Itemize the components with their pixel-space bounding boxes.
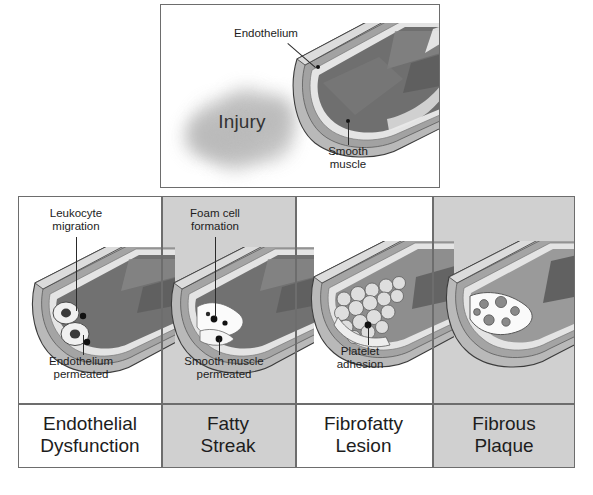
leader-line-smooth-muscle bbox=[348, 123, 349, 145]
annotation-endothelium-permeated: Endothelium permeated bbox=[33, 355, 129, 382]
stage-caption-fibrous-plaque: Fibrous Plaque bbox=[432, 403, 575, 467]
annotation-leukocyte-migration: Leukocyte migration bbox=[35, 207, 117, 234]
stage-caption-endothelial-dysfunction: Endothelial Dysfunction bbox=[19, 403, 161, 467]
annotation-platelet-adhesion: Platelet adhesion bbox=[321, 345, 399, 372]
annotation-smooth-muscle: Smooth muscle bbox=[312, 145, 384, 172]
stage-caption-fibrofatty-lesion: Fibrofatty Lesion bbox=[295, 403, 432, 467]
leader-dot-endothelium bbox=[316, 65, 320, 69]
leader-dot-smooth-muscle bbox=[346, 119, 350, 123]
injury-panel: Injury bbox=[160, 4, 440, 188]
annotation-smooth-muscle-permeated: Smooth muscle permeated bbox=[165, 355, 283, 382]
annotation-endothelium: Endothelium bbox=[234, 27, 334, 40]
leader-line-platelet-adhesion bbox=[368, 327, 369, 345]
annotation-foam-cell-formation: Foam cell formation bbox=[173, 207, 257, 234]
leader-line-foam-cell-formation bbox=[215, 237, 216, 317]
stages-container: Leukocyte migration Endothelium permeate… bbox=[18, 196, 575, 468]
leader-line-endothelium-permeated bbox=[83, 335, 84, 355]
vessel-illustration-fibrous-plaque bbox=[439, 241, 575, 381]
leader-line-smooth-muscle-permeated bbox=[219, 339, 220, 355]
leader-line-leukocyte-migration bbox=[76, 237, 77, 311]
stage-caption-fatty-streak: Fatty Streak bbox=[161, 403, 295, 467]
